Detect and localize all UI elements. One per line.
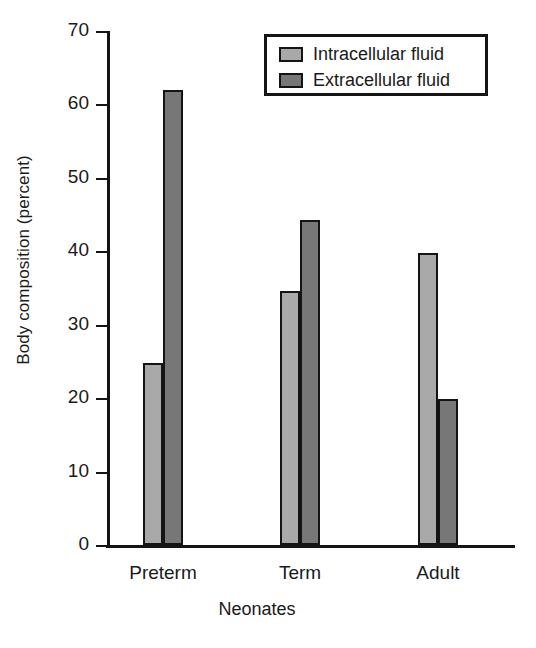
light-gray-swatch-icon bbox=[279, 47, 303, 62]
bar-preterm-intracellular bbox=[143, 363, 163, 545]
bar-term-extracellular bbox=[300, 220, 320, 545]
y-axis-tick: 70 bbox=[96, 31, 107, 33]
legend-item: Extracellular fluid bbox=[279, 67, 485, 93]
y-axis-tick: 50 bbox=[96, 178, 107, 180]
y-axis-tick: 30 bbox=[96, 325, 107, 327]
x-axis-title: Neonates bbox=[107, 599, 407, 620]
bar-adult-intracellular bbox=[418, 253, 438, 545]
legend-item-label: Extracellular fluid bbox=[313, 70, 450, 90]
y-axis-tick: 40 bbox=[96, 251, 107, 253]
x-axis-label-term: Term bbox=[230, 562, 370, 584]
legend-item-label: Intracellular fluid bbox=[313, 44, 444, 64]
x-axis-label-adult: Adult bbox=[368, 562, 508, 584]
y-axis-tick: 0 bbox=[96, 545, 107, 547]
y-axis-tick: 20 bbox=[96, 398, 107, 400]
y-axis-tick-label: 50 bbox=[68, 166, 89, 188]
bar-term-intracellular bbox=[280, 291, 300, 545]
bar-chart: Body composition (percent) 7060504030201… bbox=[0, 0, 536, 648]
bar-adult-extracellular bbox=[438, 399, 458, 545]
y-axis-title: Body composition (percent) bbox=[14, 0, 36, 520]
dark-gray-swatch-icon bbox=[279, 73, 303, 88]
y-axis-tick-label: 60 bbox=[68, 92, 89, 114]
y-axis-tick: 10 bbox=[96, 472, 107, 474]
y-axis-tick-label: 40 bbox=[68, 239, 89, 261]
chart-legend: Intracellular fluid Extracellular fluid bbox=[264, 34, 488, 96]
y-axis-tick: 60 bbox=[96, 104, 107, 106]
y-axis-tick-label: 10 bbox=[68, 460, 89, 482]
plot-area: 706050403020100 bbox=[107, 31, 515, 545]
y-axis-tick-label: 0 bbox=[78, 533, 89, 555]
x-axis-line bbox=[106, 545, 515, 548]
x-axis-label-preterm: Preterm bbox=[93, 562, 233, 584]
y-axis-line bbox=[107, 31, 110, 545]
bar-preterm-extracellular bbox=[163, 90, 183, 545]
y-axis-tick-label: 30 bbox=[68, 313, 89, 335]
y-axis-tick-label: 70 bbox=[68, 19, 89, 41]
legend-item: Intracellular fluid bbox=[279, 41, 485, 67]
y-axis-tick-label: 20 bbox=[68, 386, 89, 408]
